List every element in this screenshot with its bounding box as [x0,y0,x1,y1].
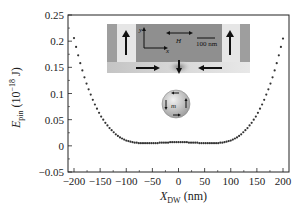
data-point [79,62,81,64]
data-point [238,135,240,137]
y-tick-label: −0.05 [39,166,65,178]
y-tick-label: 0.05 [45,114,65,126]
x-tick-label: −150 [89,175,112,187]
data-point [142,142,144,144]
x-tick-label: 50 [199,175,211,187]
data-point [113,131,115,133]
data-point [108,127,110,129]
data-point [205,142,207,144]
data-point [186,141,188,143]
x-tick-label: 0 [176,175,182,187]
data-point [221,142,223,144]
data-point [77,54,79,56]
data-point [121,137,123,139]
data-point [152,142,154,144]
data-point [100,115,102,117]
data-point [106,124,108,126]
data-point [244,129,246,131]
data-point [136,142,138,144]
data-point [274,69,276,71]
data-point [267,88,269,90]
data-point [182,141,184,143]
data-point [125,140,127,142]
x-axis-ticks: −200−150−100−50050100150200 [63,168,292,187]
data-point [90,93,92,95]
data-point [165,142,167,144]
data-point [171,141,173,143]
x-tick-label: 200 [275,175,292,187]
y-tick-label: 0.25 [45,9,65,21]
data-point [177,141,179,143]
y-tick-label: 0 [59,140,65,152]
x-tick-label: 150 [249,175,266,187]
data-point [175,141,177,143]
data-point [169,141,171,143]
data-point [215,142,217,144]
data-point [85,82,87,84]
data-point [75,46,77,48]
data-point [202,142,204,144]
data-point [269,82,271,84]
data-point [98,112,100,114]
x-tick-label: −100 [115,175,138,187]
data-point [146,142,148,144]
data-point [225,141,227,143]
data-point [230,140,232,142]
data-point [157,142,159,144]
data-point [276,62,278,64]
data-point [240,133,242,135]
data-point [140,142,142,144]
x-tick-label: 100 [223,175,240,187]
data-point [190,142,192,144]
data-point [278,54,280,56]
data-point [111,129,113,131]
data-point [263,99,265,101]
chart-figure: y x H 100 nm [0,0,308,212]
data-point [138,142,140,144]
x-axis-label: XDW (nm) [159,189,207,205]
data-point [200,142,202,144]
data-point [248,124,250,126]
data-point [246,127,248,129]
data-point [117,135,119,137]
data-point [259,108,261,110]
data-point [271,76,273,78]
data-point [148,142,150,144]
data-point [144,142,146,144]
x-tick-label: −200 [63,175,86,187]
data-point [81,69,83,71]
data-point [96,108,98,110]
data-point [129,141,131,143]
data-point [242,131,244,133]
data-point [154,142,156,144]
data-point [211,142,213,144]
data-point [179,141,181,143]
data-point [73,37,75,39]
scale-bar: 100 nm [196,38,218,48]
data-point [213,142,215,144]
data-point [115,133,117,135]
y-tick-label: 0.2 [50,35,64,47]
data-point [167,142,169,144]
y-axis-ticks: −0.0500.050.10.150.20.25 [39,9,72,178]
data-point [232,138,234,140]
data-point [127,140,129,142]
data-point [198,142,200,144]
data-point [159,142,161,144]
data-point [223,141,225,143]
y-tick-label: 0.15 [45,61,65,73]
data-point [192,142,194,144]
data-point [253,119,255,121]
data-point [161,142,163,144]
data-point [196,142,198,144]
data-point [261,103,263,105]
y-tick-label: 0.1 [50,88,64,100]
data-point [282,37,284,39]
data-point [134,142,136,144]
data-point [255,115,257,117]
data-point [104,122,106,124]
magnetization-sphere-icon: m [162,90,190,118]
data-point [94,103,96,105]
data-point [207,142,209,144]
data-point [228,140,230,142]
